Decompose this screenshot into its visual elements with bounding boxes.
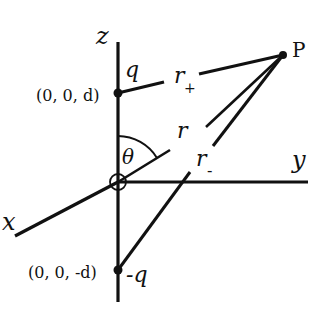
z-axis-label: z [95, 22, 109, 50]
theta-label: θ [122, 145, 134, 169]
r-minus-subscript: - [207, 161, 212, 180]
positive-charge-dot [114, 89, 123, 98]
r-plus-subscript: + [184, 80, 196, 96]
x-axis [15, 182, 118, 236]
negative-charge-coord: (0, 0, -d) [28, 263, 97, 282]
negative-charge-label: -q [126, 262, 148, 287]
r-line-upper [206, 55, 283, 127]
r-symbol: r [177, 118, 189, 143]
positive-charge-label: q [125, 57, 139, 82]
y-axis-label: y [291, 146, 306, 174]
r-plus-line-left [118, 82, 164, 93]
positive-charge-coord: (0, 0, d) [36, 86, 99, 105]
point-p-dot [279, 51, 287, 59]
dipole-diagram: z y x q (0, 0, d) -q (0, 0, -d) P r + r … [0, 0, 328, 316]
point-p-label: P [292, 38, 305, 62]
x-axis-label: x [2, 208, 16, 236]
negative-charge-dot [114, 266, 123, 275]
r-minus-line-lower [118, 172, 190, 270]
